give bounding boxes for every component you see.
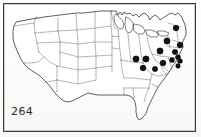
distribution-map-plate: 264 [0,0,201,137]
plate-number-label: 264 [11,106,33,117]
